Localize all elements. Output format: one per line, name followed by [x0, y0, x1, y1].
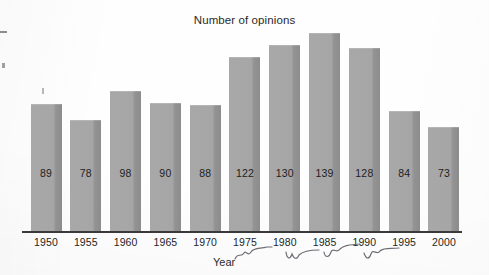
bar-slot: 90 — [147, 24, 183, 231]
bar-value-label: 89 — [31, 167, 62, 179]
bar-value-label: 130 — [269, 167, 300, 179]
x-tick-label-1955: 1955 — [68, 236, 104, 248]
bar-slot: 88 — [187, 24, 223, 231]
bar-slot: 128 — [346, 24, 382, 231]
bar-chart-figure: Number of opinions 897898908812213013912… — [0, 0, 489, 275]
bar[interactable]: 89 — [31, 104, 62, 231]
plot-area: 89789890881221301391288473 — [28, 24, 462, 231]
x-tick-label-2000: 2000 — [426, 236, 462, 248]
bar-value-label: 90 — [150, 167, 181, 179]
bar[interactable]: 90 — [150, 103, 181, 231]
bar-value-label: 73 — [428, 167, 459, 179]
x-tick-label-1980: 1980 — [267, 236, 303, 248]
x-axis-title: Year — [213, 256, 235, 268]
x-tick-label-1985: 1985 — [307, 236, 343, 248]
scan-artifact-mark-lower — [2, 63, 5, 68]
bar-value-label: 139 — [309, 167, 340, 179]
x-tick-label-1990: 1990 — [346, 236, 382, 248]
bars-container: 89789890881221301391288473 — [28, 24, 462, 231]
bar[interactable]: 73 — [428, 127, 459, 231]
bar-slot: 78 — [68, 24, 104, 231]
bar-value-label: 122 — [229, 167, 260, 179]
x-tick-label-1950: 1950 — [28, 236, 64, 248]
x-axis-tick-labels: 1950195519601965197019751980198519901995… — [28, 236, 462, 248]
bar[interactable]: 88 — [190, 105, 221, 231]
bar-slot: 122 — [227, 24, 263, 231]
bar[interactable]: 78 — [70, 120, 101, 231]
x-axis-line — [22, 231, 462, 233]
x-tick-label-1965: 1965 — [147, 236, 183, 248]
x-tick-label-1970: 1970 — [187, 236, 223, 248]
bar-value-label: 78 — [70, 167, 101, 179]
pen-squiggle-under-1990-icon — [363, 246, 401, 262]
bar-slot: 89 — [28, 24, 64, 231]
bar[interactable]: 128 — [349, 48, 380, 231]
bar-slot: 139 — [307, 24, 343, 231]
bar-value-label: 84 — [389, 167, 420, 179]
bar[interactable]: 130 — [269, 45, 300, 231]
bar[interactable]: 84 — [389, 111, 420, 231]
bar-value-label: 128 — [349, 167, 380, 179]
bar-slot: 130 — [267, 24, 303, 231]
x-tick-label-1995: 1995 — [386, 236, 422, 248]
bar-value-label: 98 — [110, 167, 141, 179]
x-tick-label-1960: 1960 — [108, 236, 144, 248]
bar[interactable]: 139 — [309, 33, 340, 231]
bar-value-label: 88 — [190, 167, 221, 179]
bar-slot: 84 — [386, 24, 422, 231]
scan-artifact-mark-top — [0, 31, 7, 33]
bar-slot: 98 — [108, 24, 144, 231]
x-tick-label-1975: 1975 — [227, 236, 263, 248]
pen-squiggle-under-1975-icon — [234, 246, 274, 262]
pen-squiggle-under-1980-icon — [285, 248, 321, 262]
bar-slot: 73 — [426, 24, 462, 231]
bar[interactable]: 98 — [110, 91, 141, 231]
bar[interactable]: 122 — [229, 57, 260, 231]
